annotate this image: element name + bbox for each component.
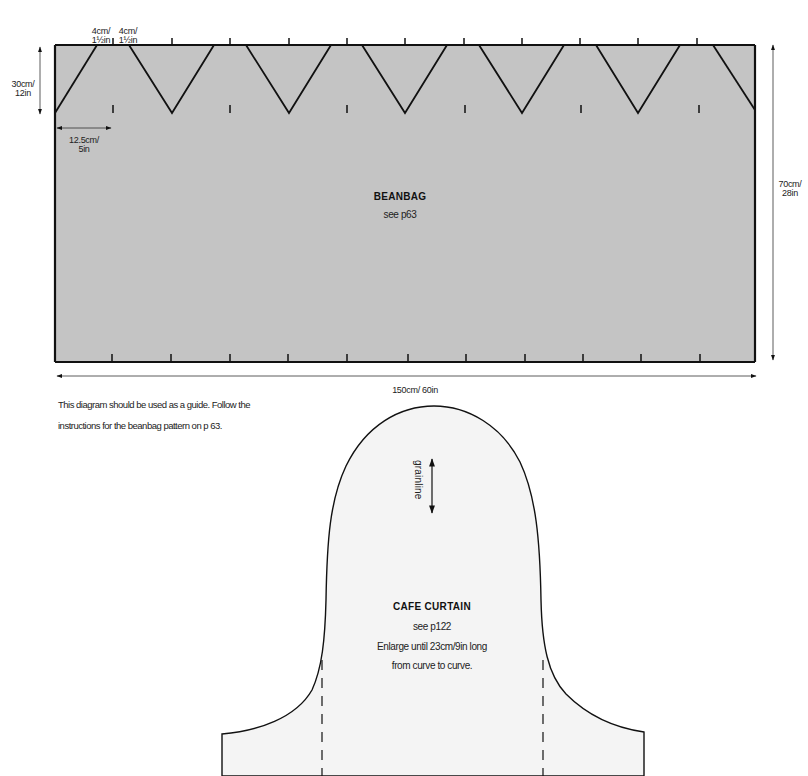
cafe-curtain-instruction-1: Enlarge until 23cm/9in long: [352, 641, 512, 652]
label-line: 5in: [64, 145, 104, 154]
width-label: 150cm/ 60in: [380, 386, 450, 395]
label-line: 1½in: [86, 36, 116, 45]
cafe-curtain-pattern-piece: [222, 406, 644, 776]
label-line: 28in: [773, 189, 807, 198]
height-label: 70cm/ 28in: [773, 180, 807, 198]
cafe-curtain-reference: see p122: [370, 621, 494, 632]
beanbag-note: This diagram should be used as a guide. …: [58, 394, 358, 436]
point-spacing-label: 12.5cm/ 5in: [64, 136, 104, 154]
note-line: instructions for the beanbag pattern on …: [58, 415, 358, 436]
beanbag-title: BEANBAG: [360, 191, 440, 202]
label-line: 12in: [8, 89, 38, 98]
flap-height-label: 30cm/ 12in: [8, 80, 38, 98]
beanbag-reference: see p63: [360, 209, 440, 220]
cafe-curtain-title: CAFE CURTAIN: [370, 601, 494, 612]
triangle-dimension-label-b: 4cm/ 1½in: [113, 27, 143, 45]
note-line: This diagram should be used as a guide. …: [58, 394, 358, 415]
cafe-curtain-instruction-2: from curve to curve.: [352, 660, 512, 671]
top-tick-marks: [113, 38, 697, 45]
grainline-label: grainline: [413, 460, 424, 500]
label-line: 1½in: [113, 36, 143, 45]
triangle-dimension-label-a: 4cm/ 1½in: [86, 27, 116, 45]
